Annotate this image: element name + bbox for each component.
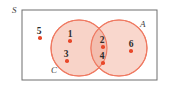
point-label-3: 3 (59, 50, 73, 60)
point-dot-2 (101, 45, 105, 49)
point-label-2: 2 (95, 36, 109, 46)
point-label-1: 1 (63, 30, 77, 40)
set-label-c: C (51, 66, 57, 75)
point-dot-4 (101, 61, 105, 65)
point-dot-1 (68, 39, 72, 43)
point-dot-3 (65, 59, 69, 63)
point-label-6: 6 (124, 40, 138, 50)
set-label-a: A (140, 20, 146, 29)
point-label-5: 5 (32, 27, 46, 37)
venn-diagram-figure: S A C 5 1 3 2 4 6 (0, 0, 170, 91)
point-dot-5 (38, 36, 42, 40)
point-label-4: 4 (95, 52, 109, 62)
universe-label-s: S (12, 6, 17, 15)
venn-diagram-canvas (0, 0, 170, 91)
point-dot-6 (129, 49, 133, 53)
